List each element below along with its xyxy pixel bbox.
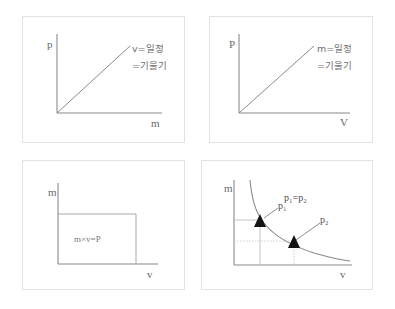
marker-p1	[254, 214, 266, 227]
annotation-constant: v=일정	[132, 44, 164, 54]
panel-p-vs-m: p m v=일정 =기울기	[22, 16, 185, 143]
panel-m-vs-v-rect: m v m×v=P	[22, 160, 185, 290]
x-axis-label: V	[340, 117, 348, 128]
panel-P-vs-V: P V m=일정 =기울기	[209, 16, 373, 143]
y-axis-label: p	[47, 39, 53, 50]
leader-line-p2	[296, 223, 320, 240]
p-vs-m-axes-and-line	[23, 17, 186, 144]
y-axis-label: P	[229, 39, 235, 50]
panel-m-vs-v-rect-plot: m v m×v=P	[23, 161, 184, 289]
marker-p2	[288, 235, 300, 248]
y-axis-label: m	[48, 187, 57, 198]
y-axis-label: m	[224, 183, 233, 194]
point-label-p2: p₂	[320, 215, 329, 225]
m-vs-v-axes-and-rect	[23, 161, 186, 291]
panel-m-vs-v-hyp-plot: m v p₁=p₂ p₁ p₂	[202, 161, 372, 289]
annotation-slope: =기울기	[317, 61, 352, 71]
leader-line-p1	[264, 208, 278, 218]
x-axis-label: v	[147, 269, 153, 280]
P-vs-V-axes-and-line	[210, 17, 374, 144]
data-line	[239, 46, 314, 113]
figure-grid: p m v=일정 =기울기 P V m=일정 =기울기	[0, 0, 395, 309]
x-axis-label: v	[340, 269, 346, 280]
point-label-p1: p₁	[278, 201, 287, 211]
panel-p-vs-m-plot: p m v=일정 =기울기	[23, 17, 184, 142]
x-axis-label: m	[151, 118, 160, 129]
panel-m-vs-v-hyp: m v p₁=p₂ p₁ p₂	[201, 160, 373, 290]
data-line	[57, 46, 130, 113]
equation-label: m×v=P	[74, 235, 101, 244]
panel-P-vs-V-plot: P V m=일정 =기울기	[210, 17, 372, 142]
relation-label: p₁=p₂	[284, 193, 307, 203]
annotation-constant: m=일정	[317, 44, 352, 54]
annotation-slope: =기울기	[132, 61, 167, 71]
m-vs-v-axes-curve-and-points	[202, 161, 374, 291]
